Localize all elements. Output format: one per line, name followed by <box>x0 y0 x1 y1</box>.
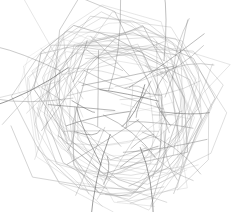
scribble-stroke <box>153 111 183 115</box>
scribble-drawing <box>0 0 233 212</box>
scribble-stroke <box>131 134 154 148</box>
scribble-loop <box>33 48 224 200</box>
scribble-stroke <box>173 68 180 138</box>
scribble-stroke <box>68 88 113 96</box>
scribble-loop <box>47 16 209 202</box>
scribble-strokes <box>0 0 230 212</box>
scribble-stroke <box>164 0 166 61</box>
scribble-stroke <box>98 51 99 127</box>
scribble-stroke <box>64 131 159 132</box>
scribble-stroke <box>14 0 60 62</box>
